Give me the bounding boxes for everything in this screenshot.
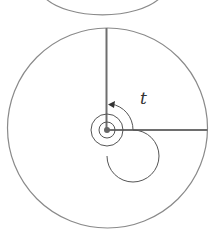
arrowhead-icon <box>108 101 115 108</box>
unit-circle-diagram: t <box>0 0 215 230</box>
upper-circle-arc <box>45 0 160 15</box>
angle-label: t <box>140 88 147 108</box>
center-point <box>104 127 110 133</box>
